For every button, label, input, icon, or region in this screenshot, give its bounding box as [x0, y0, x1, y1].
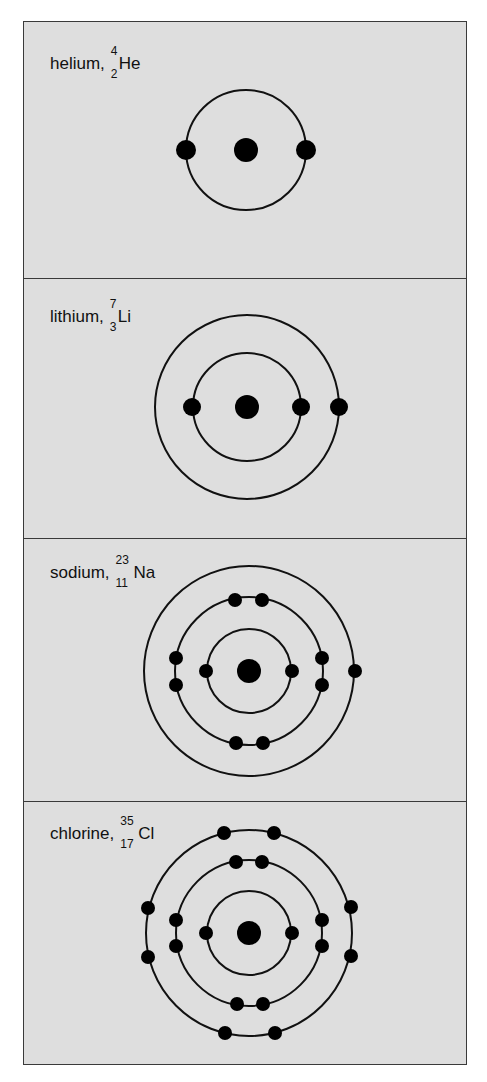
electron: [330, 398, 348, 416]
nucleus: [234, 138, 258, 162]
nucleus: [235, 395, 259, 419]
panel-chlorine: chlorine,3517Cl: [24, 802, 466, 1066]
chlorine-atom-diagram: [24, 802, 468, 1066]
lithium-atom-diagram: [24, 279, 468, 539]
nucleus: [237, 659, 261, 683]
electron: [176, 140, 196, 160]
sodium-atom-diagram: [24, 539, 468, 802]
diagram-frame: helium,42He lithium,73Li sodium,2311Na: [23, 21, 467, 1065]
nucleus: [237, 921, 261, 945]
helium-atom-diagram: [24, 22, 468, 279]
electron: [296, 140, 316, 160]
electron: [292, 398, 310, 416]
panel-lithium: lithium,73Li: [24, 279, 466, 539]
panel-helium: helium,42He: [24, 22, 466, 279]
electron: [183, 398, 201, 416]
panel-sodium: sodium,2311Na: [24, 539, 466, 802]
